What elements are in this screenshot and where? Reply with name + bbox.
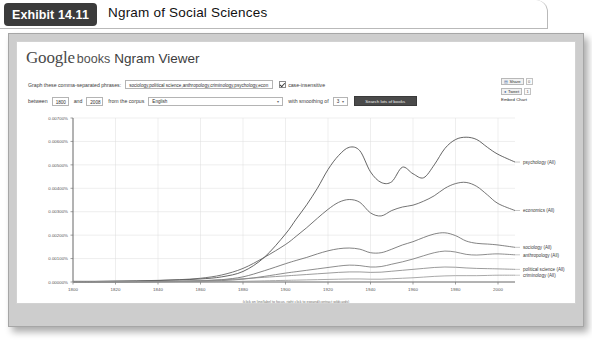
- series-label[interactable]: criminology (All): [523, 273, 556, 278]
- chevron-down-icon: ▾: [277, 99, 279, 104]
- y-tick-label: 0.00500%: [48, 163, 68, 168]
- screenshot-frame: GooglebooksNgram Viewer Graph these comm…: [8, 33, 584, 327]
- ngram-masthead: GooglebooksNgram Viewer: [26, 48, 200, 68]
- chevron-down-icon: ▾: [342, 99, 344, 104]
- case-insensitive-checkbox[interactable]: [279, 81, 286, 88]
- phrases-label: Graph these comma-separated phrases:: [28, 82, 121, 88]
- between-label: between: [28, 98, 48, 104]
- ngram-chart[interactable]: 0.00000%0.00100%0.00200%0.00300%0.00400%…: [17, 112, 576, 304]
- y-tick-label: 0.00200%: [48, 233, 68, 238]
- corpus-select[interactable]: English ▾: [148, 97, 283, 106]
- books-wordmark: books: [77, 52, 110, 66]
- series-label[interactable]: political science (All): [523, 267, 565, 272]
- series-label[interactable]: sociology (All): [523, 245, 552, 250]
- ngram-chart-svg[interactable]: 0.00000%0.00100%0.00200%0.00300%0.00400%…: [17, 112, 576, 304]
- twitter-bird-icon: ●: [504, 89, 506, 94]
- exhibit-number-tab: Exhibit 14.11: [4, 3, 97, 26]
- chart-footnote: (click on line/label to focus, right cli…: [17, 300, 575, 304]
- tweet-chip[interactable]: ● Tweet: [501, 88, 522, 95]
- x-tick-label: 1840: [153, 287, 163, 292]
- chart-gridlines: [73, 118, 515, 282]
- tweet-button[interactable]: ● Tweet 1: [501, 88, 567, 95]
- phrases-input[interactable]: sociology,political science,anthropology…: [125, 80, 273, 89]
- x-tick-label: 1920: [323, 287, 333, 292]
- series-line[interactable]: [73, 182, 515, 281]
- share-label: Share: [510, 79, 521, 84]
- smoothing-select[interactable]: 3 ▾: [333, 97, 348, 106]
- x-tick-label: 1820: [111, 287, 121, 292]
- y-tick-label: 0.00400%: [48, 186, 68, 191]
- year-end-input[interactable]: 2008: [86, 97, 103, 106]
- chart-series-lines[interactable]: [73, 137, 515, 282]
- y-tick-label: 0.00000%: [48, 280, 68, 285]
- series-line[interactable]: [73, 233, 515, 282]
- share-count: 0: [526, 78, 533, 85]
- share-chip[interactable]: ▤ Share: [501, 78, 524, 85]
- exhibit-header: Exhibit 14.11 Ngram of Social Sciences: [0, 0, 548, 29]
- series-label[interactable]: anthropology (All): [523, 253, 559, 258]
- x-tick-label: 2000: [493, 287, 503, 292]
- search-button[interactable]: Search lots of books: [354, 96, 417, 106]
- series-line[interactable]: [73, 267, 515, 282]
- corpus-label: from the corpus: [108, 98, 144, 104]
- y-tick-label: 0.00600%: [48, 139, 68, 144]
- share-icon: ▤: [504, 79, 508, 84]
- tweet-count: 1: [524, 88, 531, 95]
- x-tick-label: 1980: [451, 287, 461, 292]
- series-label[interactable]: psychology (All): [523, 160, 556, 165]
- case-insensitive-toggle[interactable]: case-insensitive: [279, 81, 325, 88]
- series-line[interactable]: [73, 251, 515, 282]
- case-insensitive-label: case-insensitive: [288, 82, 325, 88]
- x-tick-label: 1860: [196, 287, 206, 292]
- year-start-input[interactable]: 1800: [52, 97, 69, 106]
- corpus-select-value: English: [152, 99, 167, 104]
- series-label[interactable]: economics (All): [523, 208, 555, 213]
- ngram-viewer-window: GooglebooksNgram Viewer Graph these comm…: [16, 41, 576, 304]
- x-tick-label: 1880: [238, 287, 248, 292]
- chart-axes: [73, 118, 515, 282]
- share-button[interactable]: ▤ Share 0: [501, 78, 567, 85]
- google-logo: Google: [26, 48, 75, 67]
- phrases-form-row: Graph these comma-separated phrases: soc…: [28, 80, 325, 89]
- series-line[interactable]: [73, 137, 515, 281]
- x-tick-label: 1940: [366, 287, 376, 292]
- range-corpus-form-row: between 1800 and 2008 from the corpus En…: [28, 96, 417, 106]
- chart-x-ticks: 1800182018401860188019001920194019601980…: [68, 282, 503, 292]
- y-tick-label: 0.00300%: [48, 209, 68, 214]
- and-label: and: [74, 98, 83, 104]
- smoothing-label: with smoothing of: [288, 98, 328, 104]
- smoothing-select-value: 3: [337, 99, 340, 104]
- exhibit-title: Ngram of Social Sciences: [108, 5, 267, 20]
- x-tick-label: 1800: [68, 287, 78, 292]
- x-tick-label: 1960: [408, 287, 418, 292]
- ngram-viewer-wordmark: Ngram Viewer: [114, 51, 199, 66]
- y-tick-label: 0.00700%: [48, 116, 68, 121]
- chart-y-ticks: 0.00000%0.00100%0.00200%0.00300%0.00400%…: [48, 116, 73, 285]
- tweet-label: Tweet: [508, 89, 519, 94]
- y-tick-label: 0.00100%: [48, 256, 68, 261]
- chart-series-labels[interactable]: psychology (All)economics (All)sociology…: [515, 160, 565, 278]
- exhibit-number-label: Exhibit 14.11: [12, 8, 89, 22]
- share-cluster: ▤ Share 0 ● Tweet 1 Embed Chart: [501, 78, 567, 102]
- embed-chart-link[interactable]: Embed Chart: [501, 97, 567, 102]
- x-tick-label: 1900: [281, 287, 291, 292]
